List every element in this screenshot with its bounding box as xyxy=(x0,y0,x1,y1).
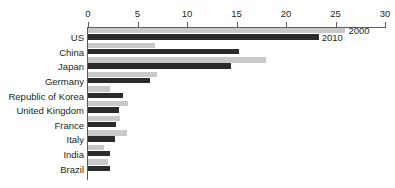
x-tick-label-30: 30 xyxy=(380,8,391,19)
x-tick-label-10: 10 xyxy=(182,8,193,19)
x-tick-mark-0 xyxy=(88,22,89,27)
bar-us-2010 xyxy=(88,34,319,39)
x-tick-label-25: 25 xyxy=(330,8,341,19)
category-label-germany: Germany xyxy=(0,77,84,87)
x-tick-label-0: 0 xyxy=(85,8,90,19)
bar-germany-2010 xyxy=(88,78,150,83)
category-label-brazil: Brazil xyxy=(0,165,84,175)
category-label-united-kingdom: United Kingdom xyxy=(0,106,84,116)
category-label-france: France xyxy=(0,121,84,131)
x-tick-mark-15 xyxy=(237,22,238,27)
bar-france-2000 xyxy=(88,116,120,121)
bar-india-2000 xyxy=(88,145,104,150)
category-label-us: US xyxy=(0,33,84,43)
x-tick-mark-10 xyxy=(187,22,188,27)
bar-italy-2010 xyxy=(88,136,115,141)
bar-brazil-2010 xyxy=(88,166,110,171)
bar-india-2010 xyxy=(88,151,110,156)
x-tick-mark-20 xyxy=(286,22,287,27)
bar-united-kingdom-2000 xyxy=(88,101,128,106)
bar-china-2010 xyxy=(88,49,239,54)
bar-japan-2000 xyxy=(88,57,266,62)
category-label-italy: Italy xyxy=(0,135,84,145)
bar-brazil-2000 xyxy=(88,159,108,164)
bar-us-2000 xyxy=(88,28,345,33)
category-label-republic-of-korea: Republic of Korea xyxy=(0,92,84,102)
category-label-china: China xyxy=(0,48,84,58)
bar-united-kingdom-2010 xyxy=(88,107,119,112)
bar-japan-2010 xyxy=(88,63,231,68)
bar-republic-of-korea-2000 xyxy=(88,86,110,91)
horizontal-bar-chart: 051015202530 USChinaJapanGermanyRepublic… xyxy=(0,0,395,188)
category-label-japan: Japan xyxy=(0,62,84,72)
series-annotation-2010: 2010 xyxy=(322,32,343,43)
x-tick-mark-30 xyxy=(385,22,386,27)
x-tick-mark-25 xyxy=(336,22,337,27)
x-tick-label-15: 15 xyxy=(231,8,242,19)
category-label-india: India xyxy=(0,150,84,160)
bar-italy-2000 xyxy=(88,130,127,135)
x-tick-mark-5 xyxy=(138,22,139,27)
bar-china-2000 xyxy=(88,43,155,48)
series-annotation-2000: 2000 xyxy=(348,25,369,36)
x-tick-label-20: 20 xyxy=(281,8,292,19)
x-tick-label-5: 5 xyxy=(135,8,140,19)
bar-france-2010 xyxy=(88,122,116,127)
bar-republic-of-korea-2010 xyxy=(88,93,123,98)
bar-germany-2000 xyxy=(88,72,157,77)
